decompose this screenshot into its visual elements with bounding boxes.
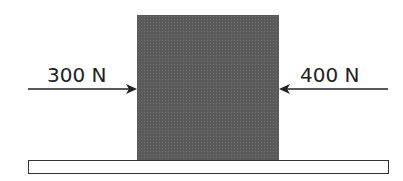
force-label-left: 300 N (47, 63, 107, 87)
force-label-right: 400 N (300, 63, 360, 87)
force-arrows (0, 0, 403, 181)
